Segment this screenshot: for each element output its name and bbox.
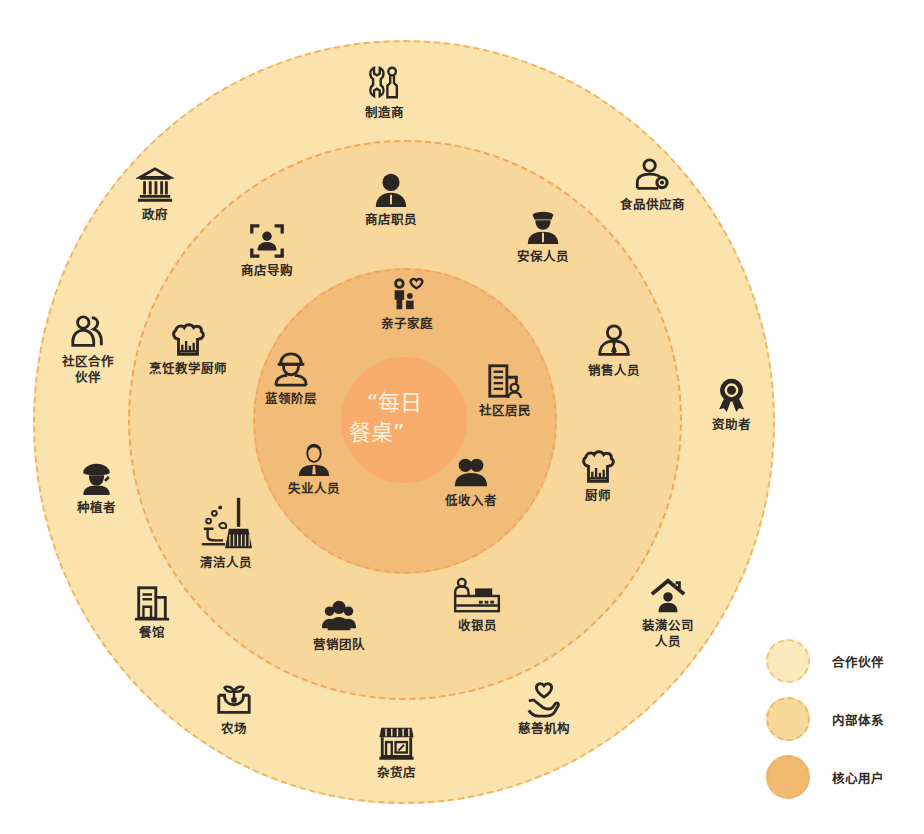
legend-label: 合作伙伴 <box>832 652 884 671</box>
node-unemployed: 失业人员 <box>288 440 340 497</box>
restaurant-building-icon <box>133 584 171 622</box>
node-sales: 销售人员 <box>588 322 640 379</box>
salesperson-icon <box>595 322 633 360</box>
node-blue-collar: 蓝领阶层 <box>265 350 317 407</box>
hand-heart-icon <box>525 680 563 718</box>
node-shopping-guide: 商店导购 <box>241 222 293 279</box>
legend-item-internal: 内部体系 <box>766 690 916 748</box>
farm-sprout-icon <box>215 680 253 718</box>
legend-item-core: 核心用户 <box>766 748 916 806</box>
node-label: 食品供应商 <box>620 197 685 213</box>
legend: 合作伙伴 内部体系 核心用户 <box>766 632 916 806</box>
security-guard-icon <box>524 208 562 246</box>
node-label: 商店导购 <box>241 263 293 279</box>
storefront-icon <box>377 724 415 762</box>
node-label: 销售人员 <box>588 363 640 379</box>
family-heart-icon <box>388 275 426 313</box>
node-restaurant: 餐馆 <box>133 584 171 641</box>
government-building-icon <box>136 166 174 204</box>
node-charity: 慈善机构 <box>518 680 570 737</box>
node-label: 蓝领阶层 <box>265 391 317 407</box>
node-label: 慈善机构 <box>518 721 570 737</box>
farmer-icon <box>77 459 115 497</box>
team-icon <box>320 596 358 634</box>
broom-icon <box>196 494 256 552</box>
node-label: 种植者 <box>77 500 116 516</box>
node-label: 制造商 <box>365 105 404 121</box>
community-partners-icon <box>69 313 107 351</box>
node-label: 餐馆 <box>139 625 165 641</box>
node-label: 装潢公司 人员 <box>642 618 694 650</box>
legend-swatch-partners <box>766 639 810 683</box>
legend-item-partners: 合作伙伴 <box>766 632 916 690</box>
legend-label: 内部体系 <box>832 710 884 729</box>
legend-swatch-core <box>766 755 810 799</box>
node-label: 杂货店 <box>377 765 416 781</box>
center-title: “每日 餐桌” <box>341 388 467 448</box>
node-label: 农场 <box>221 721 247 737</box>
tools-icon <box>365 64 403 102</box>
staff-person-icon <box>372 171 410 209</box>
node-label: 商店职员 <box>365 212 417 228</box>
node-label: 安保人员 <box>517 249 569 265</box>
node-label: 社区合作 伙伴 <box>62 354 114 386</box>
award-ribbon-icon <box>712 376 750 414</box>
center-title-line2: 餐桌” <box>341 418 467 448</box>
node-label: 资助者 <box>712 417 751 433</box>
node-label: 清洁人员 <box>200 555 252 571</box>
node-label: 政府 <box>142 207 168 223</box>
node-store-staff: 商店职员 <box>365 171 417 228</box>
node-chef: 厨师 <box>579 447 617 504</box>
focus-person-icon <box>248 222 286 260</box>
node-marketing-team: 营销团队 <box>313 596 365 653</box>
node-sponsor: 资助者 <box>712 376 751 433</box>
node-community-residents: 社区居民 <box>479 362 531 419</box>
node-farm: 农场 <box>215 680 253 737</box>
people-group-icon <box>452 452 490 490</box>
node-cooking-instructor: 烹饪教学厨师 <box>149 320 227 377</box>
node-family: 亲子家庭 <box>381 275 433 332</box>
person-suit-icon <box>295 440 333 478</box>
legend-swatch-internal <box>766 697 810 741</box>
building-resident-icon <box>486 362 524 400</box>
node-label: 亲子家庭 <box>381 316 433 332</box>
house-person-icon <box>649 577 687 615</box>
node-cashier: 收银员 <box>452 577 502 634</box>
center-title-line1: “每日 <box>341 388 467 418</box>
node-grower: 种植者 <box>77 459 116 516</box>
node-cleaners: 清洁人员 <box>196 494 256 571</box>
node-label: 社区居民 <box>479 403 531 419</box>
node-decoration-company: 装潢公司 人员 <box>642 577 694 650</box>
node-grocery-store: 杂货店 <box>377 724 416 781</box>
chef-hat-icon <box>169 320 207 358</box>
node-label: 低收入者 <box>445 493 497 509</box>
node-government: 政府 <box>136 166 174 223</box>
node-food-supplier: 食品供应商 <box>620 156 685 213</box>
chef-hat-icon <box>579 447 617 485</box>
node-label: 厨师 <box>585 488 611 504</box>
node-label: 营销团队 <box>313 637 365 653</box>
supplier-icon <box>633 156 671 194</box>
node-security: 安保人员 <box>517 208 569 265</box>
node-label: 失业人员 <box>288 481 340 497</box>
node-community-partners: 社区合作 伙伴 <box>62 313 114 386</box>
node-low-income: 低收入者 <box>445 452 497 509</box>
cashier-icon <box>452 577 502 615</box>
node-label: 收银员 <box>458 618 497 634</box>
worker-hardhat-icon <box>272 350 310 388</box>
node-label: 烹饪教学厨师 <box>149 361 227 377</box>
node-manufacturer: 制造商 <box>365 64 404 121</box>
legend-label: 核心用户 <box>832 768 884 787</box>
